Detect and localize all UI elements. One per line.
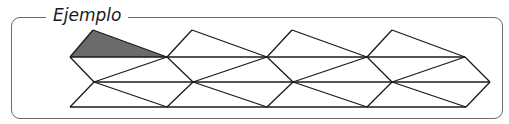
edge-line — [70, 57, 94, 82]
edge-line — [293, 82, 367, 107]
edge-line — [193, 82, 267, 107]
edge-line — [466, 82, 490, 107]
edge-line — [465, 57, 490, 82]
edge-line — [192, 30, 267, 57]
edge-line — [267, 82, 293, 107]
edge-line — [70, 82, 94, 107]
edge-line — [167, 57, 193, 82]
edge-line — [94, 57, 167, 82]
edge-line — [367, 57, 392, 82]
edge-line — [367, 30, 392, 57]
edge-line — [167, 30, 192, 57]
edge-line — [167, 82, 193, 107]
edge-line — [267, 57, 293, 82]
edge-line — [292, 30, 367, 57]
edge-line — [392, 57, 465, 82]
edge-line — [267, 30, 292, 57]
edge-line — [392, 30, 465, 57]
edge-line — [392, 82, 466, 107]
edge-line — [367, 82, 392, 107]
shaded-triangle — [70, 30, 167, 57]
edge-line — [193, 57, 267, 82]
triangle-tessellation-figure — [0, 0, 509, 124]
edge-line — [94, 82, 167, 107]
edge-line — [293, 57, 367, 82]
